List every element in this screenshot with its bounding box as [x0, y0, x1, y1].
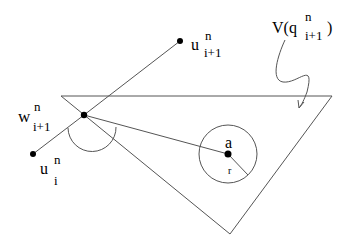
point-a: [225, 151, 232, 158]
label-r: r: [228, 165, 232, 176]
label-ucurr-sub: i: [54, 173, 58, 188]
voronoi-triangle: [61, 96, 332, 234]
label-ucurr-sup: n: [54, 152, 61, 167]
label-region-sup: n: [305, 9, 312, 24]
label-w-sup: n: [34, 99, 41, 114]
label-region-sub: i+1: [305, 28, 322, 43]
label-unext-base: u: [191, 36, 199, 53]
point-u-next: [177, 38, 183, 44]
segment-w-to-unext: [84, 41, 180, 115]
pointer-squiggle: [276, 40, 309, 108]
label-w-sub: i+1: [33, 119, 50, 134]
point-w: [81, 112, 87, 118]
diagram-canvas: w n i+1 u n i+1 u n i V(q n i+1 ) a r: [0, 0, 360, 249]
label-w-base: w: [18, 107, 31, 126]
label-a: a: [225, 134, 232, 151]
point-u-curr: [30, 151, 36, 157]
label-region-prefix: V(q: [272, 19, 297, 37]
label-unext-sub: i+1: [204, 45, 221, 60]
diagram-svg: w n i+1 u n i+1 u n i V(q n i+1 ) a r: [0, 0, 360, 249]
label-region-suffix: ): [327, 19, 332, 37]
label-unext-sup: n: [205, 28, 212, 43]
label-ucurr-base: u: [40, 160, 48, 177]
angle-arc: [68, 127, 116, 152]
